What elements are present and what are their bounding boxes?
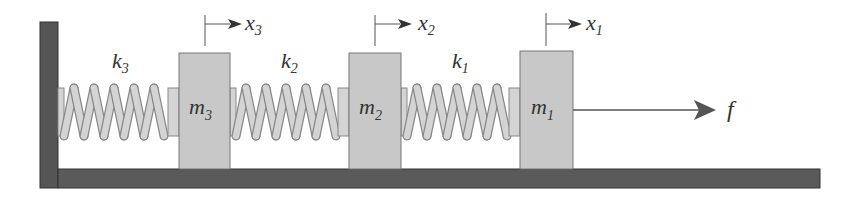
svg-text:x1: x1: [585, 10, 603, 38]
arrow-right-icon: [398, 19, 412, 29]
spring-k3: [58, 88, 179, 136]
spring-label-k3: k3: [112, 48, 129, 76]
applied-force: f: [573, 96, 737, 122]
displacement-x1: x1: [546, 10, 603, 46]
fixed-wall: [40, 22, 58, 188]
spring-k1: [401, 88, 520, 136]
svg-text:x2: x2: [417, 10, 435, 38]
svg-text:x3: x3: [244, 10, 262, 38]
spring-k2: [230, 88, 349, 136]
spring-label-k2: k2: [281, 48, 298, 76]
force-label: f: [727, 96, 737, 122]
spring-mass-diagram: m3 m2 m1 k3 k2 k1 x3 x2 x1 f: [0, 0, 856, 197]
arrow-right-icon: [568, 19, 582, 29]
floor: [58, 169, 820, 188]
arrow-right-icon: [228, 19, 242, 29]
spring-label-k1: k1: [452, 48, 469, 76]
displacement-x2: x2: [375, 10, 435, 46]
displacement-x3: x3: [205, 10, 262, 46]
